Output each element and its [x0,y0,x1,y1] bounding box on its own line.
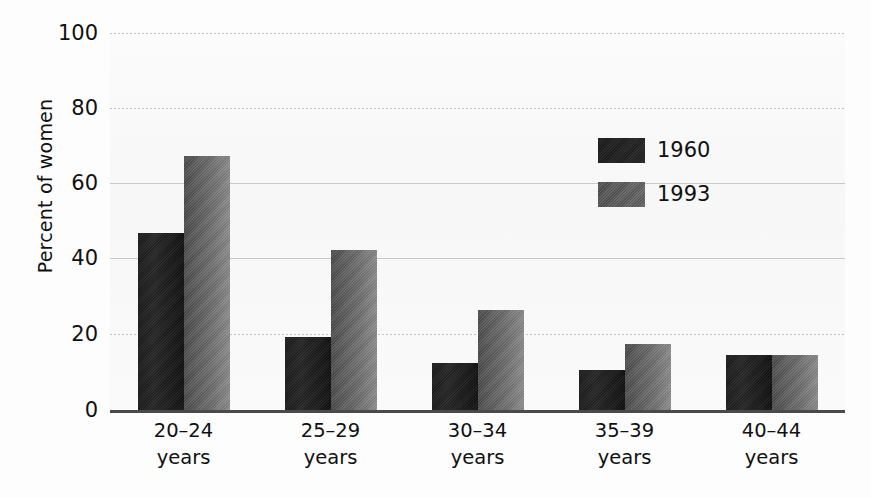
bar-1960-40–44 [726,355,772,410]
legend-swatch-1960-icon [598,138,645,163]
bar-1993-35–39 [625,344,671,410]
x-axis-group-label: 30–34years [404,418,551,472]
plot-area [110,33,845,410]
bar-1960-25–29 [285,337,331,411]
bar-1960-30–34 [432,363,478,410]
bar-1993-30–34 [478,310,524,410]
legend-item-1960: 1960 [598,128,748,172]
x-axis-group-label-range: 20–24 [154,419,213,442]
y-tick-label-60: 60 [38,173,98,194]
x-axis-group-label-range: 25–29 [301,419,360,442]
y-tick-label-80: 80 [38,98,98,119]
x-axis-labels: 20–24years25–29years30–34years35–39years… [110,418,845,488]
x-axis-line [110,410,845,413]
x-axis-group-label-range: 35–39 [595,419,654,442]
y-tick-label-0: 0 [38,400,98,421]
y-axis-tick-labels: 100 80 60 40 20 0 [36,0,98,497]
bar-1993-20–24 [184,156,230,410]
bar-1960-35–39 [579,370,625,410]
x-axis-group-label-unit: years [698,445,845,472]
x-axis-group-label-unit: years [110,445,257,472]
x-axis-group-label: 20–24years [110,418,257,472]
x-axis-group-label: 25–29years [257,418,404,472]
x-axis-group-label-unit: years [257,445,404,472]
x-axis-group-label-range: 40–44 [742,419,801,442]
chart-legend: 1960 1993 [598,128,748,216]
y-tick-label-20: 20 [38,324,98,345]
legend-item-1993: 1993 [598,172,748,216]
y-tick-label-100: 100 [38,23,98,44]
gridline-100 [110,33,845,34]
x-axis-group-label-range: 30–34 [448,419,507,442]
x-axis-group-label: 35–39years [551,418,698,472]
y-tick-label-40: 40 [38,248,98,269]
legend-label-1993: 1993 [657,184,710,205]
gridline-80 [110,108,845,109]
bar-1993-40–44 [772,355,818,410]
x-axis-group-label-unit: years [404,445,551,472]
bar-1993-25–29 [331,250,377,410]
x-axis-group-label-unit: years [551,445,698,472]
legend-label-1960: 1960 [657,140,710,161]
bar-1960-20–24 [138,233,184,410]
legend-swatch-1993-icon [598,182,645,207]
x-axis-group-label: 40–44years [698,418,845,472]
bar-chart: Percent of women 100 80 60 40 20 0 20–24… [0,0,871,497]
